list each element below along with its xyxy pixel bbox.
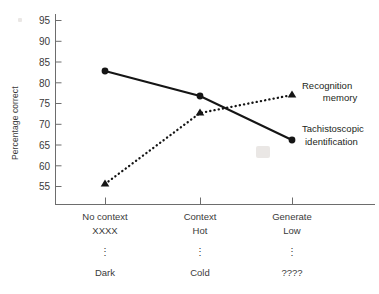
legend-label-tachistoscopic-line2: identification	[305, 136, 358, 147]
x-category-column-2: Context Hot ⋮ Cold	[184, 211, 217, 278]
legend-label-tachistoscopic-line1: Tachistoscopic	[302, 123, 364, 134]
chart-figure: 95 90 85 80 75 70 65 60 55 Percentage co…	[0, 0, 379, 294]
data-point-marker	[197, 93, 204, 100]
y-axis-title: Percentage correct	[10, 86, 20, 160]
x-label-line3: Dark	[95, 267, 115, 278]
y-tick-label-80: 80	[39, 78, 51, 89]
y-tick-label-95: 95	[39, 15, 51, 26]
y-tick-label-60: 60	[39, 161, 51, 172]
y-tick-label-55: 55	[39, 181, 51, 192]
y-tick-label-75: 75	[39, 98, 51, 109]
y-tick-label-65: 65	[39, 140, 51, 151]
x-label-ellipsis: ⋮	[100, 246, 110, 257]
y-tick-label-90: 90	[39, 36, 51, 47]
legend-label-recognition-line2: memory	[323, 92, 358, 103]
x-label-line2: Low	[283, 225, 301, 236]
x-label-line2: Hot	[193, 225, 208, 236]
scan-artifact	[18, 18, 22, 22]
x-label-line2: XXXX	[92, 225, 118, 236]
y-tick-marks	[56, 21, 62, 187]
legend-label-recognition-line1: Recognition	[302, 80, 352, 91]
data-point-marker	[289, 137, 296, 144]
line-chart: 95 90 85 80 75 70 65 60 55 Percentage co…	[0, 0, 379, 294]
x-label-ellipsis: ⋮	[287, 246, 297, 257]
x-category-column-3: Generate Low ⋮ ????	[272, 211, 312, 278]
data-point-marker	[288, 91, 297, 98]
series-tachistoscopic-identification	[102, 68, 296, 144]
series-recognition-line	[105, 95, 292, 184]
data-point-marker	[196, 109, 205, 116]
series-recognition-memory	[101, 91, 297, 187]
y-tick-label-70: 70	[39, 119, 51, 130]
x-category-column-1: No context XXXX ⋮ Dark	[82, 211, 128, 278]
data-point-marker	[102, 68, 109, 75]
x-tick-marks	[106, 198, 293, 205]
x-label-line1: Generate	[272, 211, 312, 222]
x-label-ellipsis: ⋮	[195, 246, 205, 257]
x-label-line3: Cold	[190, 267, 210, 278]
series-tachistoscopic-line	[105, 71, 292, 140]
x-label-line1: No context	[82, 211, 128, 222]
x-label-line3: ????	[281, 267, 302, 278]
x-label-line1: Context	[184, 211, 217, 222]
scan-artifact	[256, 146, 270, 158]
y-tick-label-85: 85	[39, 57, 51, 68]
